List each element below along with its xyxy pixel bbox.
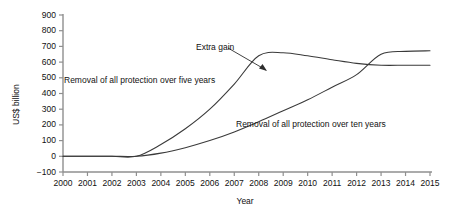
y-tick-label: 900 xyxy=(0,11,56,20)
annotation-ten-years-label: Removal of all protection over ten years xyxy=(236,120,386,129)
y-tick-label: 200 xyxy=(0,120,56,129)
y-tick-label: 300 xyxy=(0,105,56,114)
x-tick-label: 2015 xyxy=(416,179,444,188)
y-tick-label: 600 xyxy=(0,58,56,67)
series-line-five-years xyxy=(63,52,430,157)
series-line-ten-years xyxy=(63,51,430,157)
y-axis-title: US$ billion xyxy=(11,85,21,126)
y-tick-label: 400 xyxy=(0,89,56,98)
x-axis-title: Year xyxy=(237,196,254,206)
annotation-extra-gain: Extra gain xyxy=(196,43,234,52)
y-tick-label: 700 xyxy=(0,42,56,51)
annotation-five-years-label: Removal of all protection over five year… xyxy=(64,76,215,85)
y-tick-label: 800 xyxy=(0,26,56,35)
chart-container: −1000100200300400500600700800900 2000200… xyxy=(0,0,451,211)
y-tick-label: 500 xyxy=(0,73,56,82)
y-tick-label: 0 xyxy=(0,152,56,161)
y-tick-label: 100 xyxy=(0,136,56,145)
y-tick-label: −100 xyxy=(0,168,56,177)
